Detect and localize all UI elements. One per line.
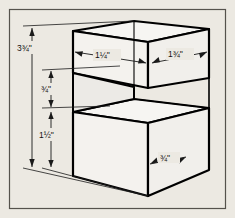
- lower-height-label: 1½": [39, 130, 54, 140]
- figure-root: 3¾" 1¼" 1¾" ¾": [0, 0, 235, 218]
- isometric-drawing: 3¾" 1¼" 1¾" ¾": [0, 0, 235, 218]
- top-width-left-label: 1¼": [95, 50, 110, 60]
- step-depth-label: ¾": [160, 153, 170, 163]
- top-width-right-label: 1¾": [168, 49, 183, 59]
- part-solid: [73, 21, 209, 196]
- overall-height-label: 3¾": [17, 43, 32, 53]
- step-height-label: ¾": [41, 84, 51, 94]
